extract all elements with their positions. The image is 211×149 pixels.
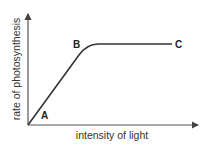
photosynthesis-curve xyxy=(28,44,172,125)
x-axis-label: intensity of light xyxy=(76,129,148,141)
point-label-b: B xyxy=(73,39,80,50)
point-label-a: A xyxy=(41,110,48,121)
point-label-c: C xyxy=(175,39,182,50)
y-axis-label: rate of photosynthesis xyxy=(10,18,22,121)
photosynthesis-graph: A B C intensity of light rate of photosy… xyxy=(0,0,211,149)
